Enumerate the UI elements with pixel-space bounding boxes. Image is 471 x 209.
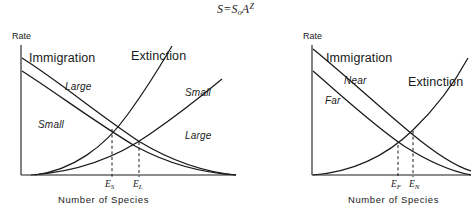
left-y-axis-label: Rate	[12, 32, 31, 41]
left-immigration-small-label: Small	[38, 120, 64, 130]
right-x-axis-label: Number of Species	[348, 195, 439, 205]
left-extinction-header: Extinction	[131, 50, 186, 63]
left-equilibrium-el: EL	[133, 180, 143, 191]
left-extinction-large-label: Large	[185, 131, 212, 141]
left-equilibrium-es: ES	[105, 180, 114, 191]
right-immigration-far-label: Far	[325, 96, 341, 106]
right-panel-equilibrium-lines	[398, 131, 413, 177]
left-es-sub: S	[111, 183, 115, 191]
left-panel-curves	[22, 46, 236, 175]
right-equilibrium-en: EN	[409, 180, 419, 191]
figure-graphics	[0, 0, 471, 209]
left-x-axis-label: Number of Species	[58, 195, 149, 205]
right-en-sub: N	[415, 183, 420, 191]
right-y-axis-label: Rate	[303, 32, 322, 41]
curve-immigration-near	[313, 49, 471, 171]
left-panel-equilibrium-lines	[112, 129, 139, 177]
left-el-sub: L	[139, 183, 143, 191]
right-panel-curves	[313, 49, 471, 175]
right-immigration-header: Immigration	[326, 52, 392, 65]
left-extinction-small-label: Small	[185, 88, 211, 98]
left-immigration-large-label: Large	[65, 82, 92, 92]
right-ef-sub: F	[397, 183, 401, 191]
right-immigration-near-label: Near	[344, 76, 366, 86]
right-equilibrium-ef: EF	[391, 180, 401, 191]
left-immigration-header: Immigration	[29, 52, 95, 65]
curve-immigration-large	[22, 58, 236, 175]
figure-page: S=SoAZ	[0, 0, 471, 209]
curve-extinction-small	[35, 46, 172, 175]
right-extinction-header: Extinction	[408, 76, 463, 89]
